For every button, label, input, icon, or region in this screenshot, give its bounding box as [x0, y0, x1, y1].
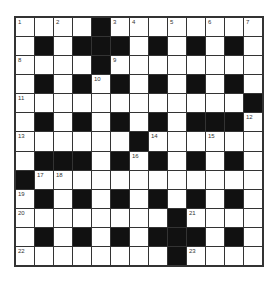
grid-cell[interactable]	[244, 132, 262, 150]
grid-cell[interactable]: 11	[16, 94, 34, 112]
grid-cell[interactable]	[130, 247, 148, 265]
grid-cell[interactable]	[187, 18, 205, 36]
grid-cell[interactable]	[225, 132, 243, 150]
grid-cell[interactable]	[111, 132, 129, 150]
grid-cell[interactable]	[73, 171, 91, 189]
grid-cell[interactable]	[206, 228, 224, 246]
grid-cell[interactable]	[73, 247, 91, 265]
grid-cell[interactable]	[244, 75, 262, 93]
grid-cell[interactable]	[35, 132, 53, 150]
grid-cell[interactable]	[244, 171, 262, 189]
grid-cell[interactable]	[206, 75, 224, 93]
grid-cell[interactable]	[54, 37, 72, 55]
grid-cell[interactable]	[16, 152, 34, 170]
grid-cell[interactable]	[206, 56, 224, 74]
grid-cell[interactable]	[111, 94, 129, 112]
grid-cell[interactable]	[54, 75, 72, 93]
grid-cell[interactable]	[92, 247, 110, 265]
grid-cell[interactable]	[225, 56, 243, 74]
grid-cell[interactable]	[206, 152, 224, 170]
grid-cell[interactable]	[168, 171, 186, 189]
grid-cell[interactable]: 13	[16, 132, 34, 150]
grid-cell[interactable]	[244, 37, 262, 55]
grid-cell[interactable]	[225, 247, 243, 265]
grid-cell[interactable]: 3	[111, 18, 129, 36]
grid-cell[interactable]	[130, 209, 148, 227]
grid-cell[interactable]	[92, 228, 110, 246]
grid-cell[interactable]	[35, 18, 53, 36]
grid-cell[interactable]: 14	[149, 132, 167, 150]
grid-cell[interactable]	[149, 171, 167, 189]
grid-cell[interactable]	[54, 94, 72, 112]
grid-cell[interactable]	[130, 75, 148, 93]
grid-cell[interactable]	[54, 132, 72, 150]
grid-cell[interactable]: 18	[54, 171, 72, 189]
grid-cell[interactable]	[92, 190, 110, 208]
grid-cell[interactable]: 9	[111, 56, 129, 74]
grid-cell[interactable]: 8	[16, 56, 34, 74]
grid-cell[interactable]	[16, 113, 34, 131]
grid-cell[interactable]	[225, 18, 243, 36]
grid-cell[interactable]	[130, 228, 148, 246]
grid-cell[interactable]	[168, 75, 186, 93]
grid-cell[interactable]: 6	[206, 18, 224, 36]
grid-cell[interactable]	[130, 190, 148, 208]
grid-cell[interactable]: 23	[187, 247, 205, 265]
grid-cell[interactable]: 17	[35, 171, 53, 189]
grid-cell[interactable]	[35, 247, 53, 265]
grid-cell[interactable]	[168, 190, 186, 208]
grid-cell[interactable]	[187, 171, 205, 189]
grid-cell[interactable]	[244, 228, 262, 246]
grid-cell[interactable]	[73, 132, 91, 150]
grid-cell[interactable]: 22	[16, 247, 34, 265]
grid-cell[interactable]	[149, 18, 167, 36]
grid-cell[interactable]	[92, 132, 110, 150]
grid-cell[interactable]	[244, 56, 262, 74]
grid-cell[interactable]	[206, 247, 224, 265]
grid-cell[interactable]: 19	[16, 190, 34, 208]
grid-cell[interactable]	[54, 228, 72, 246]
grid-cell[interactable]	[16, 37, 34, 55]
grid-cell[interactable]	[244, 190, 262, 208]
grid-cell[interactable]	[130, 94, 148, 112]
grid-cell[interactable]	[73, 209, 91, 227]
grid-cell[interactable]	[92, 209, 110, 227]
grid-cell[interactable]	[130, 113, 148, 131]
grid-cell[interactable]	[187, 56, 205, 74]
grid-cell[interactable]	[111, 209, 129, 227]
grid-cell[interactable]: 16	[130, 152, 148, 170]
grid-cell[interactable]	[54, 190, 72, 208]
grid-cell[interactable]	[206, 94, 224, 112]
grid-cell[interactable]	[130, 37, 148, 55]
grid-cell[interactable]	[244, 247, 262, 265]
grid-cell[interactable]	[206, 171, 224, 189]
grid-cell[interactable]	[168, 113, 186, 131]
grid-cell[interactable]	[130, 56, 148, 74]
grid-cell[interactable]	[168, 132, 186, 150]
grid-cell[interactable]	[168, 152, 186, 170]
grid-cell[interactable]	[35, 209, 53, 227]
grid-cell[interactable]	[187, 94, 205, 112]
grid-cell[interactable]	[16, 75, 34, 93]
grid-cell[interactable]	[187, 132, 205, 150]
grid-cell[interactable]: 5	[168, 18, 186, 36]
grid-cell[interactable]	[130, 171, 148, 189]
grid-cell[interactable]	[168, 94, 186, 112]
grid-cell[interactable]: 20	[16, 209, 34, 227]
grid-cell[interactable]	[92, 152, 110, 170]
grid-cell[interactable]	[149, 247, 167, 265]
grid-cell[interactable]	[225, 171, 243, 189]
grid-cell[interactable]	[168, 56, 186, 74]
grid-cell[interactable]: 21	[187, 209, 205, 227]
grid-cell[interactable]: 10	[92, 75, 110, 93]
grid-cell[interactable]	[54, 113, 72, 131]
grid-cell[interactable]	[149, 209, 167, 227]
grid-cell[interactable]: 12	[244, 113, 262, 131]
grid-cell[interactable]	[225, 209, 243, 227]
grid-cell[interactable]	[244, 209, 262, 227]
grid-cell[interactable]	[111, 247, 129, 265]
grid-cell[interactable]	[73, 94, 91, 112]
grid-cell[interactable]	[244, 152, 262, 170]
grid-cell[interactable]	[54, 209, 72, 227]
grid-cell[interactable]	[206, 37, 224, 55]
